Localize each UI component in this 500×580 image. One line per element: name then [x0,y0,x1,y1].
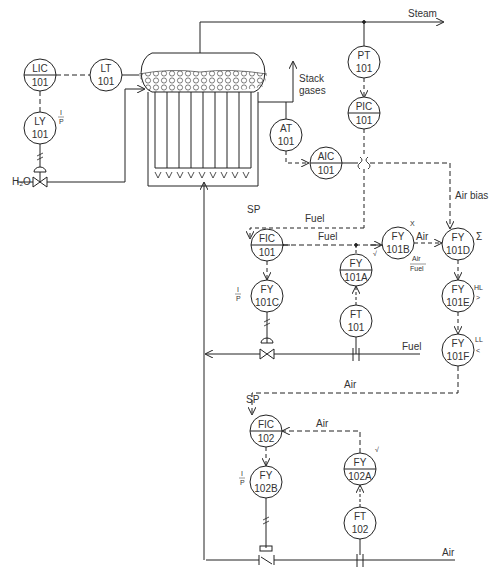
fuel-inlet-label: Fuel [402,341,421,352]
high-select-symbol: > [476,294,480,301]
fic-102-setpoint-label: SP [246,394,260,405]
air-bias-label: Air bias [455,190,488,201]
fuel-measurement-label: Fuel [318,231,337,242]
fy-101e-tag: FY [452,284,465,295]
boiler-tubes [148,92,258,186]
aic-101-num: 101 [318,165,335,176]
fic-101-setpoint-label: SP [247,204,261,215]
fy-102a-num: 102A [348,471,372,482]
burners [155,172,249,178]
fy-101c-ip-den: P [236,295,241,302]
ly-101-ip-num: I [60,109,62,116]
ft-101-num: 101 [348,322,365,333]
pt-101-num: 101 [356,63,373,74]
pic-101-num: 101 [356,115,373,126]
boiler-drum [139,53,267,92]
fy-101d-num: 101D [446,245,470,256]
lt-101-num: 101 [98,76,115,87]
fy-102b-ip-den: P [240,479,245,486]
ly-101-ip-den: P [59,118,64,125]
sqrt-symbol-101a: √ [373,250,377,257]
at-101-num: 101 [278,136,295,147]
ratio-denominator: Fuel [410,265,424,272]
ft-102-num: 102 [352,524,369,535]
ft-101-tag: FT [350,309,362,320]
air-measurement-label: Air [316,418,329,429]
summer-symbol: Σ [476,231,482,242]
ratio-numerator: Air [412,255,421,262]
air-setpoint-label: Air [344,379,357,390]
fuel-signal-label: Fuel [305,213,324,224]
steam-line [200,21,443,53]
fy-102b-num: 102B [254,483,278,494]
air-inlet-label: Air [442,547,455,558]
steam-label: Steam [408,8,437,19]
fy-102a-tag: FY [354,457,367,468]
fy-101b-tag: FY [392,231,405,242]
sqrt-symbol-102a: √ [375,446,379,453]
fy-101b-num: 101B [386,244,410,255]
water-label: H₂O [12,176,31,187]
fic-102-num: 102 [258,433,275,444]
stack-gases-label: Stackgases [299,73,326,96]
fy-101e-num: 101E [446,297,470,308]
fy-101a-num: 101A [344,272,368,283]
pic-101-tag: PIC [356,101,373,112]
ly-101-tag: LY [34,116,46,127]
fy-101c-num: 101C [255,297,279,308]
aic-101-tag: AIC [318,151,335,162]
low-limit-label: LL [475,336,483,343]
ft-102-tag: FT [354,511,366,522]
fuel-line [206,338,420,361]
fy-102b-tag: FY [260,470,273,481]
lic-101-num: 101 [32,77,49,88]
at-101-tag: AT [280,123,292,134]
air-damper [259,555,274,565]
fy-101f-tag: FY [452,338,465,349]
lt-101-tag: LT [101,63,112,74]
fic-101-num: 101 [259,247,276,258]
fy-101f-num: 101F [447,351,470,362]
fy-102b-ip-num: I [241,470,243,477]
multiply-symbol: X [410,220,415,227]
fy-101c-ip-num: I [237,286,239,293]
fic-101-tag: FIC [259,233,275,244]
pid-diagram: LIC 101 LT 101 LY 101 PT 101 PIC 101 AT … [0,0,500,580]
high-limit-label: HL [474,284,483,291]
air-ratio-label: Air [416,231,429,242]
fy-101a-tag: FY [350,258,363,269]
fy-101d-tag: FY [452,232,465,243]
low-select-symbol: < [476,347,480,354]
ly-101-num: 101 [32,129,49,140]
air-line [206,546,455,567]
lic-101-tag: LIC [32,63,48,74]
fy-101c-tag: FY [261,284,274,295]
pt-101-tag: PT [358,50,371,61]
fuel-control-valve [260,349,274,359]
fic-102-tag: FIC [258,419,274,430]
